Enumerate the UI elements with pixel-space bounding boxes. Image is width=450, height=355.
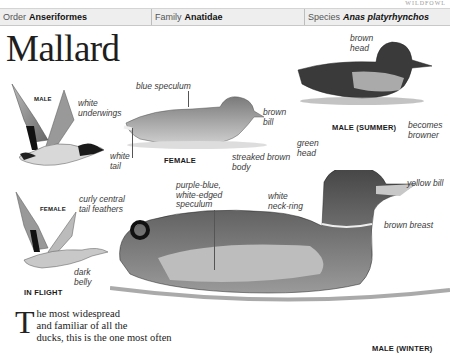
body-line-2: and familiar of all the: [16, 320, 201, 332]
caption-female-flight: FEMALE: [40, 206, 66, 212]
label-becomes-browner: becomes browner: [408, 121, 443, 140]
species-label: Species: [308, 12, 340, 22]
label-brown-breast: brown breast: [384, 221, 433, 231]
label-dark-belly: dark belly: [74, 268, 91, 287]
label-white-underwings: white underwings: [78, 99, 121, 118]
family-label: Family: [155, 12, 182, 22]
label-yellow-bill: yellow bill: [407, 179, 443, 189]
label-blue-speculum: blue speculum: [136, 82, 191, 92]
family-cell: Family Anatidae: [152, 9, 305, 25]
label-brown-head: brown head: [350, 34, 373, 53]
caption-male-flight: MALE: [34, 96, 52, 102]
taxonomy-bar: Order Anseriformes Family Anatidae Speci…: [0, 8, 450, 26]
family-value: Anatidae: [185, 12, 223, 22]
label-speculum: purple-blue, white-edged speculum: [176, 181, 222, 210]
order-cell: Order Anseriformes: [0, 9, 152, 25]
page-title: Mallard: [6, 27, 120, 70]
caption-male-winter: MALE (WINTER): [372, 344, 433, 353]
running-head: WILDFOWL: [405, 0, 446, 6]
body-text: T he most widespread and familiar of all…: [16, 308, 201, 344]
male-flight-illustration: [6, 80, 106, 170]
order-label: Order: [3, 12, 26, 22]
label-white-neck-ring: white neck-ring: [268, 192, 303, 211]
label-green-head: green head: [297, 139, 319, 158]
body-line-1: he most widespread: [16, 308, 201, 320]
drop-cap: T: [15, 310, 35, 334]
order-value: Anseriformes: [29, 12, 87, 22]
caption-female: FEMALE: [164, 156, 196, 165]
species-value: Anas platyrhynchos: [343, 12, 429, 22]
species-cell: Species Anas platyrhynchos: [305, 9, 450, 25]
label-white-tail: white tail: [110, 152, 130, 171]
label-brown-bill: brown bill: [263, 108, 286, 127]
leader-line: [132, 128, 133, 158]
caption-male-summer: MALE (SUMMER): [332, 123, 396, 132]
caption-in-flight: IN FLIGHT: [24, 288, 62, 297]
leader-line: [214, 210, 215, 270]
leader-line: [188, 91, 189, 107]
label-curly-tail-feathers: curly central tail feathers: [79, 195, 125, 214]
female-illustration: [122, 95, 272, 150]
